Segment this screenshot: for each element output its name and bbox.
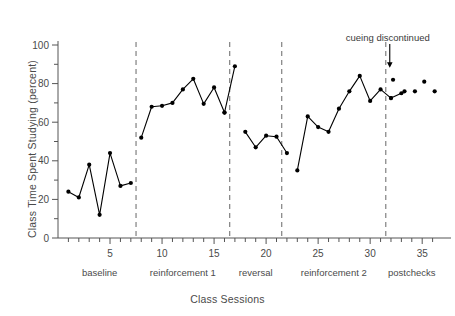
data-point — [129, 181, 133, 185]
data-point — [358, 74, 362, 78]
y-tick-label: 0 — [43, 233, 49, 244]
data-point — [402, 89, 406, 93]
x-tick-label: 5 — [107, 248, 113, 259]
data-point — [285, 151, 289, 155]
data-point — [108, 151, 112, 155]
data-point — [274, 135, 278, 139]
data-point — [389, 96, 393, 100]
phase-label: reversal — [239, 267, 273, 278]
data-point — [391, 78, 395, 82]
phase-labels: baselinereinforcement 1reversalreinforce… — [82, 267, 436, 278]
phase-dividers — [136, 42, 386, 238]
y-axis-title: Class Time Spent Studying (percent) — [26, 42, 38, 257]
x-tick-label: 30 — [365, 248, 377, 259]
data-point — [139, 136, 143, 140]
data-point — [306, 114, 310, 118]
data-point — [413, 89, 417, 93]
data-point — [433, 89, 437, 93]
data-point — [66, 190, 70, 194]
x-tick-label: 25 — [313, 248, 325, 259]
phase-label: reinforcement 1 — [150, 267, 216, 278]
x-axis-title: Class Sessions — [0, 293, 455, 305]
data-point — [222, 110, 226, 114]
x-tick-label: 20 — [261, 248, 273, 259]
data-point — [87, 163, 91, 167]
x-tick-label: 10 — [156, 248, 168, 259]
annotation-label: cueing discontinued — [346, 32, 430, 43]
chart-figure: 0204060801005101520253035 cueing discont… — [0, 0, 455, 316]
data-point — [212, 85, 216, 89]
annotation-arrow-head — [387, 62, 393, 68]
data-point — [77, 195, 81, 199]
phase-label: postchecks — [388, 267, 436, 278]
data-series — [68, 66, 401, 215]
data-point — [170, 101, 174, 105]
data-point — [118, 184, 122, 188]
data-point — [233, 64, 237, 68]
axes: 0204060801005101520253035 — [32, 40, 451, 260]
y-tick-label: 60 — [38, 117, 50, 128]
data-point — [98, 213, 102, 217]
data-point — [160, 104, 164, 108]
data-point — [150, 105, 154, 109]
data-point — [264, 134, 268, 138]
y-tick-label: 40 — [38, 155, 50, 166]
data-point — [243, 130, 247, 134]
data-point — [347, 89, 351, 93]
y-tick-label: 80 — [38, 78, 50, 89]
x-tick-label: 35 — [417, 248, 429, 259]
series-line-segment — [297, 76, 391, 171]
data-point — [316, 125, 320, 129]
annotation-cueing-discontinued: cueing discontinued — [346, 32, 430, 68]
y-tick-label: 20 — [38, 194, 50, 205]
data-point — [181, 87, 185, 91]
data-point — [202, 102, 206, 106]
data-point — [326, 130, 330, 134]
data-point — [422, 80, 426, 84]
line-chart: 0204060801005101520253035 cueing discont… — [0, 0, 455, 316]
phase-label: baseline — [82, 267, 117, 278]
data-point — [368, 99, 372, 103]
data-point — [295, 168, 299, 172]
data-point — [254, 145, 258, 149]
x-tick-label: 15 — [209, 248, 221, 259]
data-point — [191, 77, 195, 81]
data-point — [337, 107, 341, 111]
series-line-segment — [68, 153, 130, 215]
data-point — [378, 87, 382, 91]
phase-label: reinforcement 2 — [301, 267, 367, 278]
